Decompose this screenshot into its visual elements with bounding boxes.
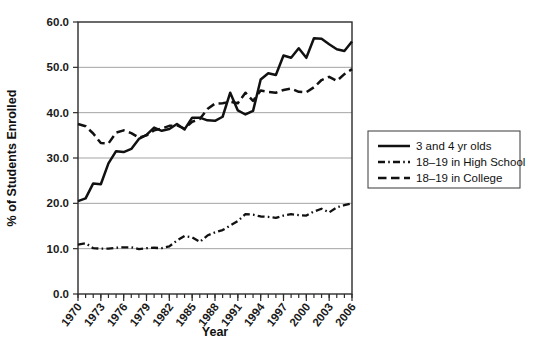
legend-label: 3 and 4 yr olds — [416, 140, 492, 152]
chart-legend: 3 and 4 yr olds18–19 in High School18–19… — [368, 131, 525, 188]
y-tick-label: 30.0 — [47, 152, 69, 164]
legend-label: 18–19 in College — [416, 172, 502, 184]
y-tick-label: 50.0 — [47, 61, 69, 73]
y-tick-label: 20.0 — [47, 197, 69, 209]
y-axis-title: % of Students Enrolled — [5, 90, 19, 227]
x-axis-title: Year — [202, 325, 229, 339]
figure-caption-strip — [0, 347, 537, 356]
y-tick-label: 10.0 — [47, 243, 69, 255]
y-tick-label: 0.0 — [53, 288, 69, 300]
y-tick-label: 60.0 — [47, 16, 69, 28]
enrollment-line-chart: 0.010.020.030.040.050.060.0 197019731976… — [0, 0, 537, 356]
legend-label: 18–19 in High School — [416, 156, 525, 168]
chart-figure: 0.010.020.030.040.050.060.0 197019731976… — [0, 0, 537, 356]
y-tick-label: 40.0 — [47, 107, 69, 119]
